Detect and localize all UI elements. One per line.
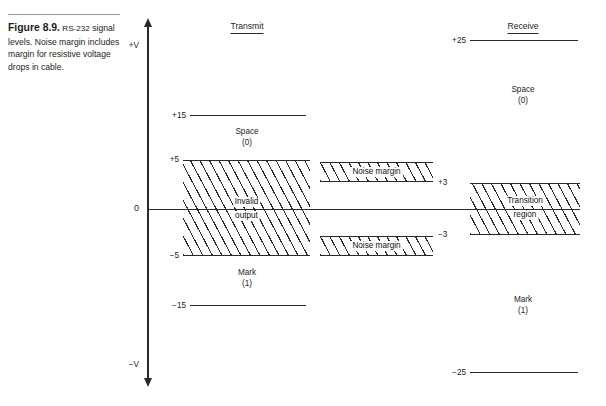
axis-label-positive: +V xyxy=(129,41,139,51)
receive-transition-label-line2: region xyxy=(512,210,539,220)
noise-margin-level-label-plus3: +3 xyxy=(438,178,447,188)
heading-receive: Receive xyxy=(507,21,538,34)
figure-number: Figure 8.9. xyxy=(8,22,60,33)
receive-transition-label-line1: Transition xyxy=(505,196,545,206)
voltage-axis-line xyxy=(147,26,149,378)
transmit-invalid-output-region: Invalid output xyxy=(183,160,310,256)
transmit-space-label: Space xyxy=(235,127,258,137)
axis-arrow-down xyxy=(144,378,152,387)
receive-transition-region: Transition region xyxy=(470,183,580,235)
receive-level-label-minus25: −25 xyxy=(452,368,466,378)
receive-mark-label: Mark xyxy=(514,295,532,305)
noise-margin-upper-label: Noise margin xyxy=(350,167,402,177)
noise-margin-level-label-minus3: −3 xyxy=(438,230,447,240)
noise-margin-lower-label: Noise margin xyxy=(350,241,402,251)
receive-level-line-plus25 xyxy=(470,40,578,41)
noise-margin-upper-region: Noise margin xyxy=(320,162,433,182)
figure-caption: Figure 8.9. RS-232 signal levels. Noise … xyxy=(8,14,126,73)
caption-rule xyxy=(8,14,120,15)
transmit-level-label-plus5: +5 xyxy=(170,155,179,165)
transmit-invalid-label-line2: output xyxy=(233,211,260,221)
noise-margin-lower-region: Noise margin xyxy=(320,236,433,256)
axis-label-negative: −V xyxy=(129,360,139,370)
heading-transmit: Transmit xyxy=(230,21,263,34)
transmit-invalid-label-line1: Invalid xyxy=(233,197,261,207)
transmit-mark-bit: (1) xyxy=(242,279,252,289)
transmit-space-bit: (0) xyxy=(242,138,252,148)
transmit-level-label-minus15: −15 xyxy=(172,301,186,311)
receive-level-line-minus25 xyxy=(470,372,578,373)
receive-mark-bit: (1) xyxy=(518,306,528,316)
axis-label-zero: 0 xyxy=(134,203,139,213)
figure-lead: RS-232 xyxy=(62,24,89,33)
receive-space-label: Space xyxy=(511,85,534,95)
transmit-mark-label: Mark xyxy=(238,268,256,278)
caption-text: Figure 8.9. RS-232 signal levels. Noise … xyxy=(8,22,126,73)
receive-space-bit: (0) xyxy=(518,96,528,106)
transmit-level-label-plus15: +15 xyxy=(172,111,186,121)
transmit-level-line-minus15 xyxy=(190,305,306,306)
transmit-level-label-minus5: −5 xyxy=(170,251,179,261)
transmit-level-line-plus15 xyxy=(190,115,306,116)
receive-level-label-plus25: +25 xyxy=(452,36,466,46)
figure-rs232-signal-levels: Figure 8.9. RS-232 signal levels. Noise … xyxy=(0,0,606,406)
